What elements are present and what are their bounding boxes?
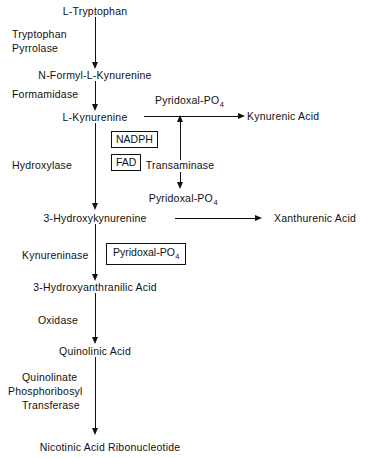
arrow-line-kynurenine-to-kynurenic-acid	[144, 116, 240, 117]
enzyme-formamidase: Formamidase	[12, 88, 78, 100]
cofactor-pyridoxal-phosphate-bottom-base: Pyridoxal-PO	[149, 192, 213, 204]
product-kynurenic-acid: Kynurenic Acid	[247, 110, 319, 122]
cofactor-label-nadph: NADPH	[116, 133, 153, 145]
spine-kynurenine-to-hydroxykynurenine	[95, 123, 96, 205]
arrowhead-transaminase-down	[177, 182, 183, 189]
node-n-formyl-l-kynurenine: N-Formyl-L-Kynurenine	[38, 69, 151, 81]
cofactor-pyridoxal-phosphate-top: Pyridoxal-PO4	[155, 94, 224, 108]
enzyme-quinolinate-prt-line3: Transferase	[22, 399, 80, 411]
cofactor-box-fad: FAD	[111, 154, 141, 171]
cofactor-label-pyridoxal-phosphate: Pyridoxal-PO	[113, 246, 175, 258]
cofactor-pyridoxal-phosphate-bottom: Pyridoxal-PO4	[149, 192, 218, 206]
node-3-hydroxyanthranilic-acid: 3-Hydroxyanthranilic Acid	[33, 281, 156, 293]
enzyme-tryptophan-pyrrolase-line2: Pyrrolase	[12, 42, 58, 54]
node-quinolinic-acid: Quinolinic Acid	[59, 345, 131, 357]
node-l-tryptophan: L-Tryptophan	[63, 5, 127, 17]
spine-quinolinic-to-nicotinic	[95, 357, 96, 430]
arrowhead-to-anthranilic	[92, 274, 98, 281]
arrowhead-to-nformyl	[92, 62, 98, 69]
enzyme-transaminase: Transaminase	[146, 159, 215, 171]
arrowhead-to-nicotinic	[92, 428, 98, 435]
enzyme-tryptophan-pyrrolase-line1: Tryptophan	[12, 28, 67, 40]
cofactor-box-pyridoxal-phosphate: Pyridoxal-PO4	[106, 243, 186, 265]
enzyme-quinolinate-prt-line2: Phosphoribosyl	[8, 385, 83, 397]
arrowhead-transaminase-up	[177, 115, 183, 122]
arrowhead-to-hydroxykynurenine	[92, 203, 98, 210]
cofactor-box-nadph: NADPH	[111, 131, 158, 148]
arrowhead-to-kynurenine	[92, 104, 98, 111]
enzyme-kynureninase: Kynureninase	[22, 249, 89, 261]
node-nicotinic-acid-ribonucleotide: Nicotinic Acid Ribonucleotide	[40, 441, 181, 453]
arrowhead-to-quinolinic	[92, 337, 98, 344]
cofactor-pyridoxal-phosphate-top-base: Pyridoxal-PO	[155, 94, 219, 106]
cofactor-pyridoxal-phosphate-bottom-subscript: 4	[213, 198, 217, 207]
tryptophan-pathway-diagram: L-Tryptophan N-Formyl-L-Kynurenine L-Kyn…	[0, 0, 368, 458]
node-l-kynurenine: L-Kynurenine	[63, 111, 128, 123]
cofactor-subscript-pyridoxal-phosphate: 4	[175, 252, 179, 261]
enzyme-quinolinate-prt-line1: Quinolinate	[22, 371, 77, 383]
arrow-line-hydroxykynurenine-to-xanthurenic-acid	[175, 218, 257, 219]
enzyme-oxidase: Oxidase	[38, 314, 78, 326]
enzyme-hydroxylase: Hydroxylase	[12, 159, 72, 171]
spine-tryptophan-to-nformyl	[95, 17, 96, 64]
spine-anthranilic-to-quinolinic	[95, 293, 96, 339]
product-xanthurenic-acid: Xanthurenic Acid	[274, 212, 356, 224]
node-3-hydroxykynurenine: 3-Hydroxykynurenine	[43, 212, 146, 224]
transaminase-branch-line-upper	[180, 122, 181, 160]
arrowhead-to-kynurenic-acid	[238, 113, 245, 119]
cofactor-label-fad: FAD	[116, 156, 136, 168]
spine-hydroxykynurenine-to-anthranilic	[95, 224, 96, 276]
cofactor-pyridoxal-phosphate-top-subscript: 4	[220, 100, 224, 109]
arrowhead-to-xanthurenic-acid	[255, 215, 262, 221]
